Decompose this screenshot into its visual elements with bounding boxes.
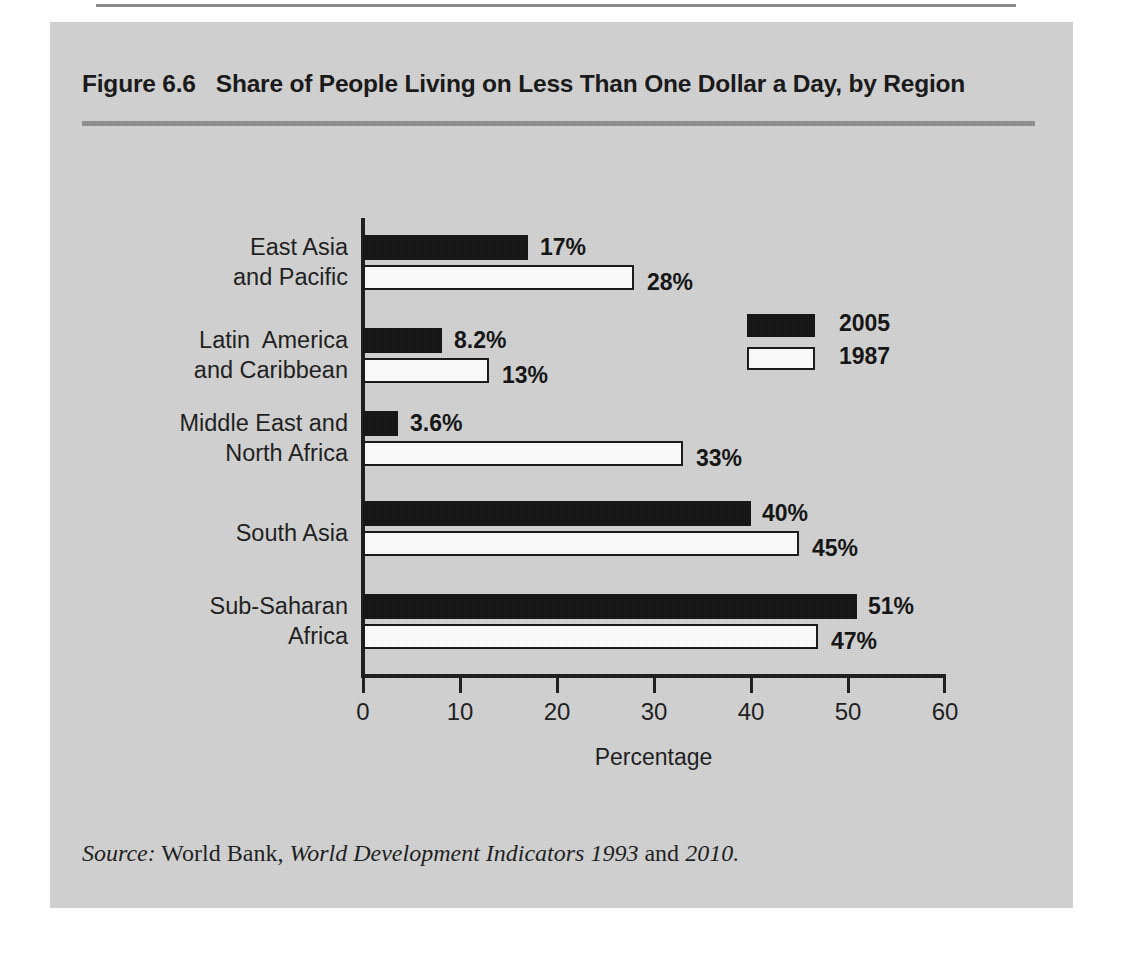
x-tick-40 [750,678,753,693]
category-line-1: East Asia [60,232,348,262]
source-prefix: Source: [82,840,156,866]
legend-label-2005: 2005 [839,310,890,337]
x-tick-20 [556,678,559,693]
figure-panel: Figure 6.6Share of People Living on Less… [50,22,1073,908]
category-line-1: Latin America [60,325,348,355]
x-tick-label-50: 50 [835,698,862,726]
bar-latin-america-1987 [363,358,489,383]
x-tick-label-40: 40 [738,698,765,726]
category-line-2: Africa [60,621,348,651]
bar-middle-east-1987 [363,441,683,466]
legend-swatch-1987 [747,347,815,370]
x-axis-title: Percentage [361,744,946,771]
x-tick-30 [653,678,656,693]
category-label-middle-east: Middle East and North Africa [60,408,348,468]
bar-latin-america-2005 [363,328,442,353]
x-tick-10 [459,678,462,693]
category-label-south-asia: South Asia [60,518,348,548]
bar-value-east-asia-1987: 28% [647,269,693,296]
x-tick-label-60: 60 [932,698,959,726]
bar-south-asia-1987 [363,531,799,556]
category-line-2: and Pacific [60,262,348,292]
source-conjunction: and [644,840,679,866]
category-label-latin-america: Latin America and Caribbean [60,325,348,385]
bar-value-middle-east-2005: 3.6% [410,410,462,437]
page-canvas: Figure 6.6Share of People Living on Less… [0,0,1125,968]
category-line-1: Middle East and [60,408,348,438]
legend-swatch-2005 [747,314,815,337]
bar-value-south-asia-2005: 40% [762,500,808,527]
bar-value-south-asia-1987: 45% [812,535,858,562]
bar-chart: 0 10 20 30 40 50 60 Percentage East Asia… [50,22,1073,908]
x-tick-label-20: 20 [544,698,571,726]
bar-value-sub-saharan-1987: 47% [831,628,877,655]
x-tick-60 [943,678,946,693]
legend-label-1987: 1987 [839,343,890,370]
page-top-rule [96,4,1016,7]
bar-value-middle-east-1987: 33% [696,445,742,472]
bar-value-latin-america-1987: 13% [502,362,548,389]
x-tick-0 [362,678,365,693]
bar-south-asia-2005 [363,501,751,526]
x-tick-50 [847,678,850,693]
source-publisher: World Bank, [161,840,283,866]
bar-sub-saharan-2005 [363,594,857,619]
bar-value-sub-saharan-2005: 51% [868,593,914,620]
bar-sub-saharan-1987 [363,624,818,649]
category-label-east-asia: East Asia and Pacific [60,232,348,292]
category-line-2: North Africa [60,438,348,468]
category-label-sub-saharan: Sub-Saharan Africa [60,591,348,651]
bar-east-asia-1987 [363,265,634,290]
x-tick-label-0: 0 [356,698,369,726]
bar-east-asia-2005 [363,235,528,260]
figure-source: Source: World Bank, World Development In… [82,840,739,867]
x-tick-label-30: 30 [641,698,668,726]
bar-value-east-asia-2005: 17% [540,234,586,261]
category-line-1: Sub-Saharan [60,591,348,621]
category-line-2: and Caribbean [60,355,348,385]
bar-middle-east-2005 [363,411,398,436]
source-work: World Development Indicators 1993 [289,840,638,866]
x-tick-label-10: 10 [447,698,474,726]
bar-value-latin-america-2005: 8.2% [454,327,506,354]
source-year-2010: 2010. [685,840,739,866]
category-line-1: South Asia [60,518,348,548]
